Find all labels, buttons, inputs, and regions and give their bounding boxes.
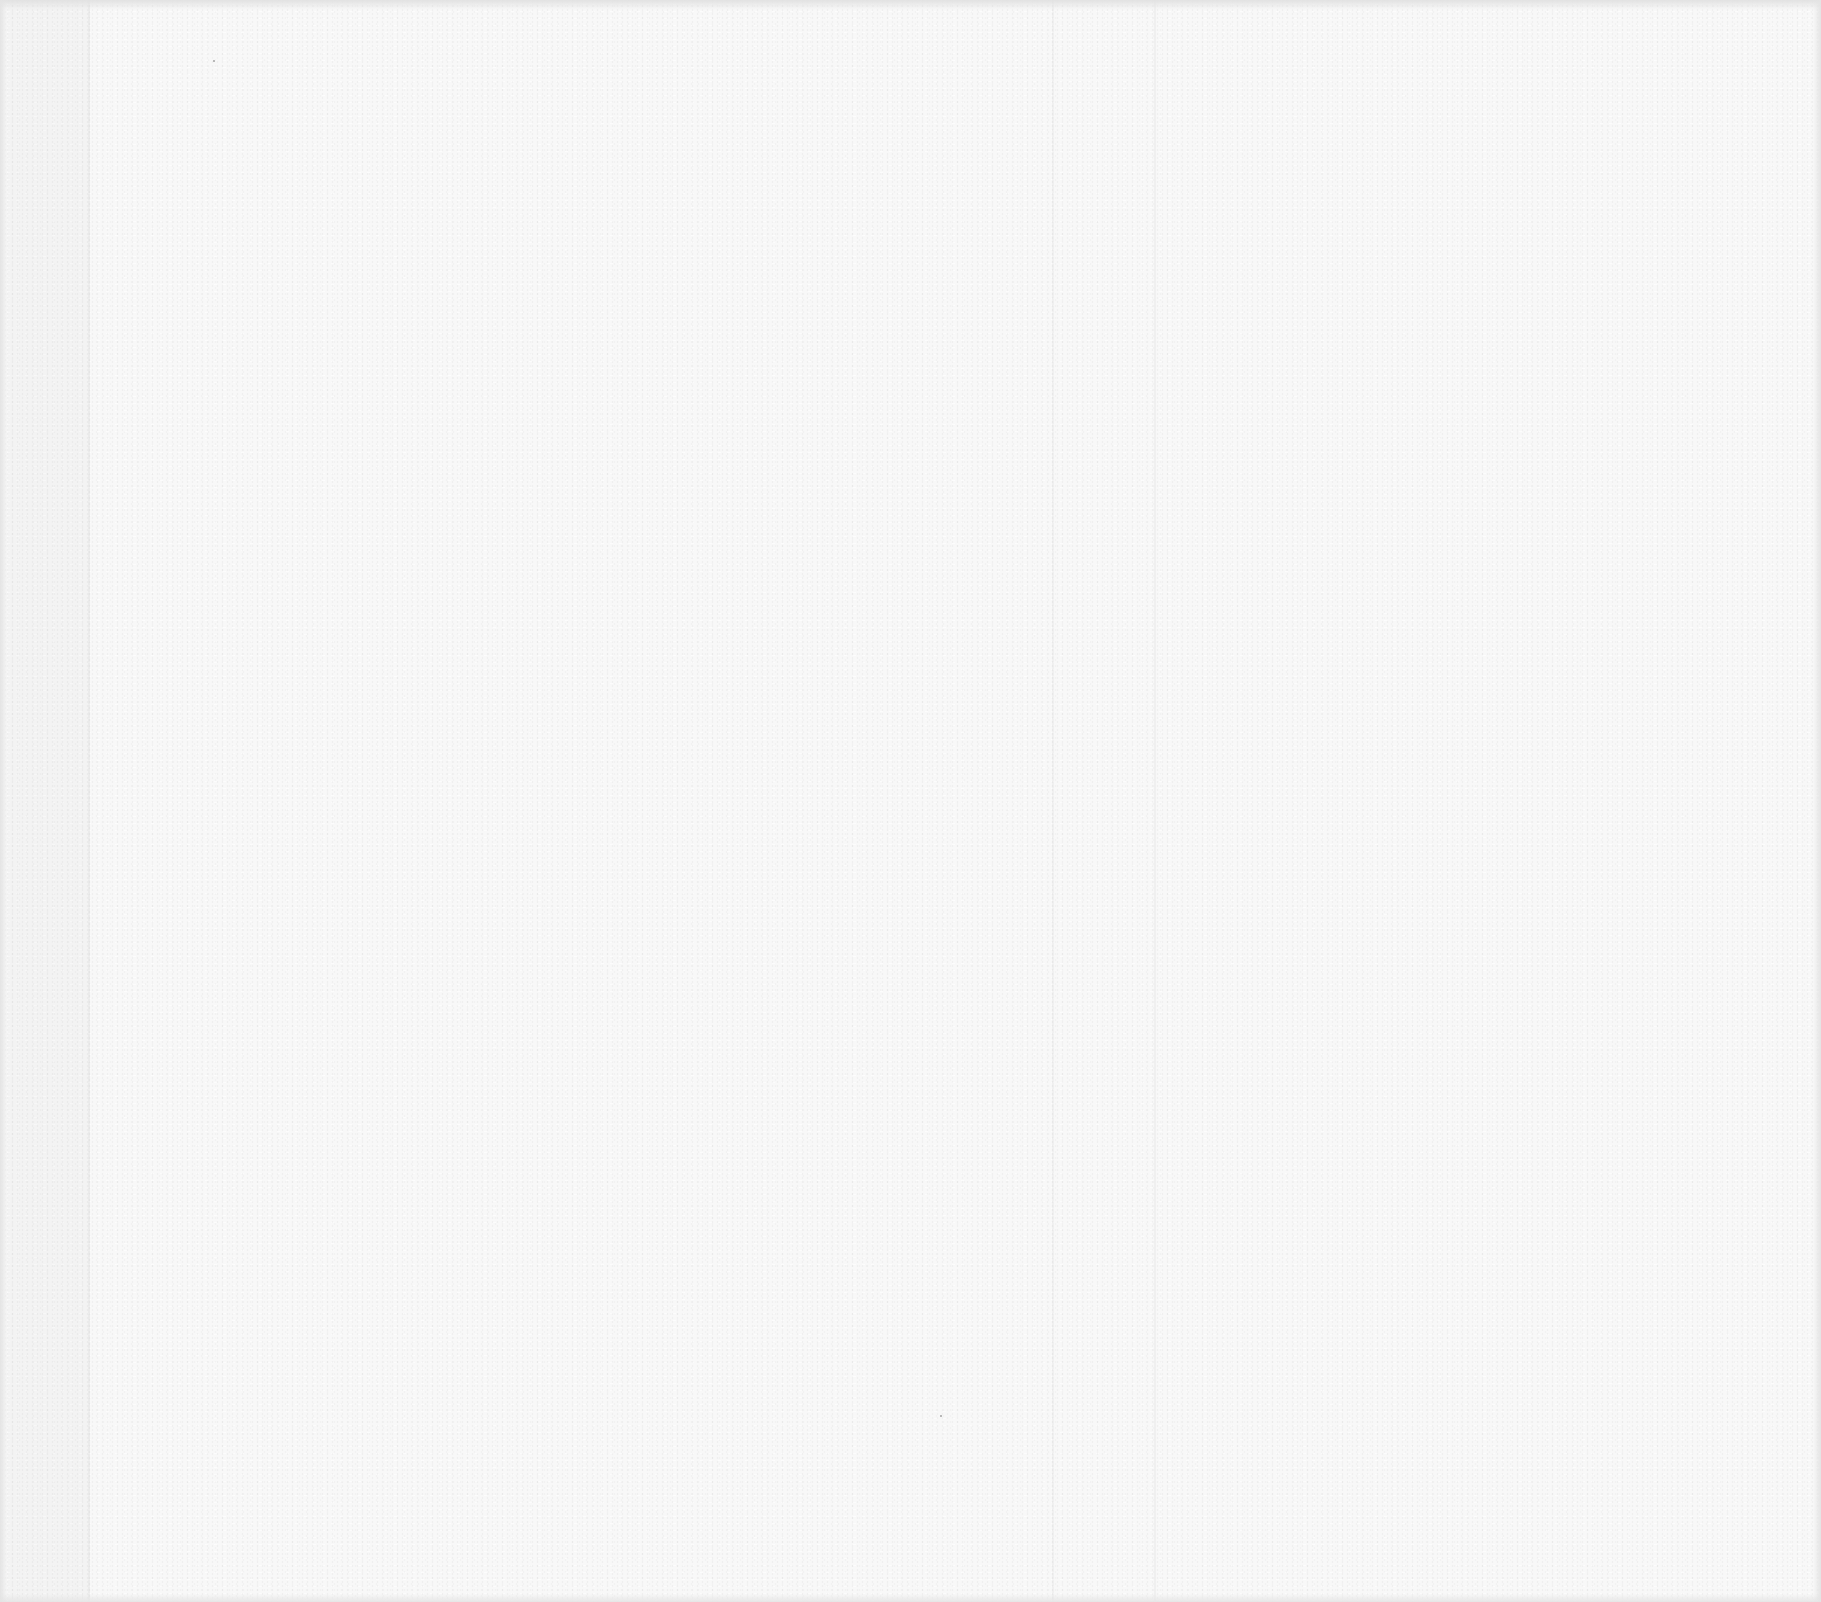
blank-paper-page	[0, 0, 1821, 1602]
page-left-margin-strip	[8, 0, 90, 1602]
paper-fold-line	[88, 0, 90, 1602]
paper-speck	[213, 60, 215, 62]
paper-speck	[940, 1415, 942, 1417]
page-edge-bottom	[0, 1594, 1821, 1602]
paper-fold-line	[1154, 0, 1156, 1602]
page-edge-left	[0, 0, 8, 1602]
page-edge-top	[0, 0, 1821, 10]
paper-fold-line	[1052, 0, 1054, 1602]
page-edge-right	[1813, 0, 1821, 1602]
